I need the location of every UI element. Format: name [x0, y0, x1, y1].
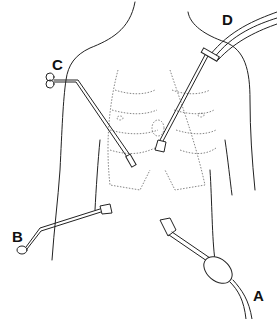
device-a-tubing: [230, 280, 252, 319]
left-ribcage: [108, 70, 150, 190]
left-ribs: [110, 90, 158, 154]
torso-illustration: A B C D: [0, 0, 277, 319]
right-ribcage: [165, 70, 205, 190]
device-b-hub: [100, 204, 112, 214]
left-nipple: [117, 116, 123, 120]
device-a-catheter: [169, 232, 210, 261]
device-d-lines: [210, 12, 277, 60]
device-b-catheter: [26, 209, 101, 249]
device-b-ring: [17, 246, 27, 254]
label-a: A: [253, 288, 264, 303]
label-b: B: [12, 229, 23, 244]
label-c: C: [52, 57, 63, 72]
device-c-catheter: [54, 80, 130, 157]
sternum: [152, 120, 164, 136]
left-inner-arm-line: [95, 140, 100, 210]
device-d-hub: [155, 140, 166, 152]
right-flank-line: [210, 170, 215, 260]
label-d: D: [222, 12, 233, 27]
right-inner-arm-line: [225, 140, 232, 195]
torso-drawing: [0, 0, 277, 319]
left-torso-outline: [52, 2, 135, 260]
device-d-catheter: [160, 55, 208, 141]
device-c-hub: [126, 154, 136, 167]
